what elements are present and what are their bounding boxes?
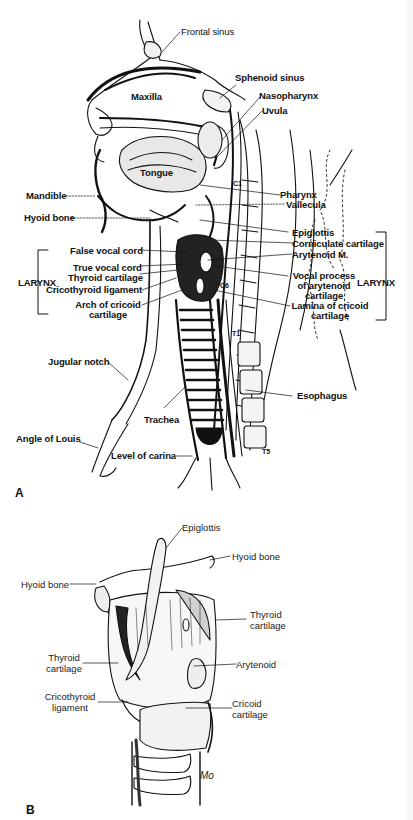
label-lamina-of-cricoid: Lamina of cricoid cartilage [290, 301, 370, 321]
artist-signature: Mo [200, 770, 214, 781]
panel-letter-a: A [15, 486, 24, 500]
label-mandible: Mandible [26, 191, 66, 201]
label-b-thyroid-right-line2: cartilage [250, 620, 286, 631]
label-frontal-sinus: Frontal sinus [181, 27, 234, 37]
label-b-thyroid-cartilage-left: Thyroid cartilage [44, 652, 84, 674]
label-arch-of-cricoid: Arch of cricoid cartilage [72, 300, 144, 320]
label-false-vocal-cord: False vocal cord [70, 246, 143, 256]
vertebra-t5: T5 [262, 448, 270, 455]
label-thyroid-cartilage: Thyroid cartilage [68, 273, 143, 283]
label-epiglottis: Epiglottis [292, 228, 334, 238]
vertebra-c1: C1 [233, 180, 242, 187]
label-b-thyroid-cartilage-right: Thyroid cartilage [250, 609, 286, 631]
label-larynx-right: LARYNX [357, 278, 395, 288]
label-arytenoid-m: Arytenoid M. [292, 250, 348, 260]
label-b-thyroid-right-line1: Thyroid [250, 609, 286, 620]
vertebra-c6: C6 [220, 282, 229, 289]
label-b-cricothyroid-ligament: Cricothyroid ligament [42, 691, 98, 713]
label-nasopharynx: Nasopharynx [259, 91, 318, 101]
label-b-hyoid-bone-left: Hyoid bone [21, 579, 69, 590]
label-corniculate-cartilage: Corniculate cartilage [292, 239, 384, 249]
label-tongue: Tongue [140, 168, 173, 178]
label-arch-of-cricoid-line2: cartilage [72, 310, 144, 320]
label-lamina-of-cricoid-line2: cartilage [290, 311, 370, 321]
page-edge [407, 0, 413, 820]
label-vallecula: Vallecula [286, 200, 326, 210]
label-angle-of-louis: Angle of Louis [16, 434, 81, 444]
label-b-hyoid-bone-right: Hyoid bone [232, 551, 280, 562]
anatomy-figure: Frontal sinus Sphenoid sinus Maxilla Nas… [0, 0, 413, 820]
label-b-cricoid-line2: cartilage [232, 709, 268, 720]
label-vocal-process: Vocal process of arytenoid cartilage [289, 271, 359, 301]
label-level-of-carina: Level of carina [111, 451, 176, 461]
label-b-epiglottis: Epiglottis [182, 522, 221, 533]
label-uvula: Uvula [262, 106, 287, 116]
label-b-arytenoid: Arytenoid [236, 659, 276, 670]
label-esophagus: Esophagus [297, 391, 347, 401]
label-sphenoid-sinus: Sphenoid sinus [235, 73, 304, 83]
label-b-thyroid-left-line1: Thyroid [44, 652, 84, 663]
label-b-cricothyroid-line2: ligament [42, 702, 98, 713]
panel-letter-b: B [26, 803, 35, 817]
label-cricothyroid-ligament: Cricothyroid ligament [46, 285, 142, 295]
label-b-thyroid-left-line2: cartilage [44, 663, 84, 674]
label-maxilla: Maxilla [131, 92, 162, 102]
label-jugular-notch: Jugular notch [48, 357, 110, 367]
vertebra-t1: T1 [232, 330, 240, 337]
label-hyoid-bone: Hyoid bone [24, 213, 75, 223]
label-b-cricoid-line1: Cricoid [232, 698, 268, 709]
label-trachea: Trachea [144, 415, 179, 425]
label-b-cricoid-cartilage: Cricoid cartilage [232, 698, 268, 720]
label-b-cricothyroid-line1: Cricothyroid [42, 691, 98, 702]
